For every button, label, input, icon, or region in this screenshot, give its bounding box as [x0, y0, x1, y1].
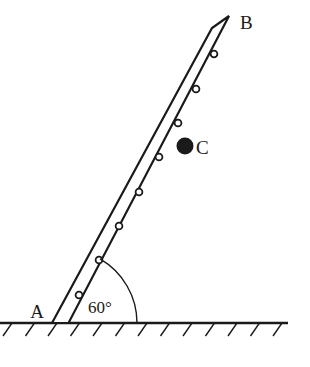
ladder-rung-hole — [156, 154, 163, 161]
ladder-rung-hole — [116, 223, 123, 230]
ground-hatch-mark — [138, 323, 147, 336]
ladder-group — [52, 16, 229, 323]
ground-hatch-mark — [251, 323, 260, 336]
ground-hatch-mark — [71, 323, 80, 336]
physics-diagram-ladder: A B C 60° — [0, 0, 310, 367]
label-point-a: A — [30, 301, 44, 322]
ground-hatch-mark — [26, 323, 35, 336]
ground-hatch-mark — [183, 323, 192, 336]
ground-group — [0, 323, 288, 336]
mass-point-marker — [177, 138, 194, 155]
ground-hatching — [3, 323, 282, 336]
ladder-body — [52, 16, 229, 323]
label-point-b: B — [240, 12, 253, 33]
ground-hatch-mark — [116, 323, 125, 336]
ladder-rung-hole — [175, 120, 182, 127]
diagram-canvas: A B C 60° — [0, 0, 310, 367]
label-point-c: C — [196, 137, 209, 158]
ladder-rung-hole — [193, 86, 200, 93]
ground-hatch-mark — [206, 323, 215, 336]
ground-hatch-mark — [3, 323, 12, 336]
ladder-rung-hole — [136, 189, 143, 196]
ground-hatch-mark — [228, 323, 237, 336]
ground-hatch-mark — [48, 323, 57, 336]
ladder-rung-hole — [76, 292, 83, 299]
ladder-rung-hole — [211, 51, 218, 58]
ground-hatch-mark — [273, 323, 282, 336]
ground-hatch-mark — [161, 323, 170, 336]
label-angle-value: 60° — [88, 298, 112, 317]
ground-hatch-mark — [93, 323, 102, 336]
